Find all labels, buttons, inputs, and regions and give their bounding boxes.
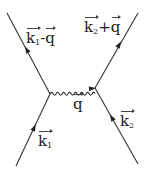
label-k2-plus-q: k2+q bbox=[84, 20, 120, 36]
label-operator: + bbox=[98, 18, 111, 36]
label-k-base: k bbox=[26, 29, 35, 47]
label-sub: 1 bbox=[47, 141, 52, 150]
label-sub: 2 bbox=[129, 121, 134, 130]
label-k1-minus-q: k1-q bbox=[26, 31, 55, 47]
label-k1: k1 bbox=[38, 134, 52, 150]
label-sub: 2 bbox=[93, 27, 98, 36]
label-k2: k2 bbox=[120, 114, 134, 130]
arrow-k1-icon bbox=[30, 123, 37, 131]
fermion-line-k1-out bbox=[7, 13, 50, 94]
diagram-lines bbox=[0, 0, 144, 177]
arrow-k2-icon bbox=[108, 113, 116, 122]
label-q: q bbox=[73, 97, 83, 112]
label-sub: 1 bbox=[35, 38, 40, 47]
label-k-base: k bbox=[120, 112, 129, 130]
label-q-base: q bbox=[45, 31, 55, 46]
label-q-base: q bbox=[73, 97, 83, 112]
label-k-base: k bbox=[84, 18, 93, 36]
feynman-diagram: k1-q k2+q q k1 k2 bbox=[0, 0, 144, 177]
label-k-base: k bbox=[38, 132, 47, 150]
label-q-base: q bbox=[111, 20, 121, 35]
